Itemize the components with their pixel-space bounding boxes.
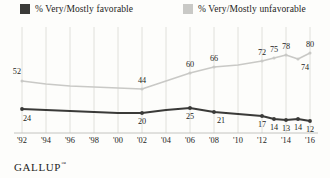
trademark-icon: ™: [61, 161, 66, 166]
x-tick-label: '92: [17, 136, 27, 145]
data-label: 66: [210, 54, 218, 63]
data-point: [261, 60, 264, 63]
data-point: [189, 72, 192, 75]
chart-legend: % Very/Mostly favorable % Very/Mostly un…: [0, 0, 330, 24]
data-point: [309, 52, 312, 55]
data-point: [21, 80, 24, 83]
data-label: 44: [138, 76, 146, 85]
data-point: [273, 57, 276, 60]
data-label: 14: [270, 123, 278, 132]
data-label: 13: [282, 124, 290, 133]
legend-swatch-favorable-icon: [20, 4, 30, 14]
x-tick-label: '06: [185, 136, 195, 145]
data-point: [297, 58, 300, 61]
legend-swatch-unfavorable-icon: [183, 4, 193, 14]
data-point: [296, 117, 300, 121]
data-point: [213, 66, 216, 69]
data-label: 60: [186, 60, 194, 69]
x-tick-label: '04: [161, 136, 171, 145]
gallup-logo: GALLUP: [14, 161, 61, 173]
data-label: 21: [217, 116, 225, 125]
x-tick-label: '02: [137, 136, 147, 145]
x-tick-label: '96: [65, 136, 75, 145]
data-point: [284, 118, 288, 122]
data-point: [141, 88, 144, 91]
legend-label-favorable: % Very/Mostly favorable: [35, 4, 133, 14]
data-point: [20, 107, 24, 111]
x-tick-label: '10: [233, 136, 243, 145]
data-label: 12: [306, 125, 314, 134]
data-label: 17: [258, 120, 266, 129]
data-labels-favorable: 242025211714131412: [23, 112, 314, 134]
data-label: 74: [301, 63, 309, 72]
data-labels-unfavorable: 524460667275787480: [13, 40, 314, 85]
x-axis-tick-labels: '92'94'96'98'00'02'04'06'08'10'12'14'16: [0, 136, 330, 152]
x-tick-label: '94: [41, 136, 51, 145]
data-label: 78: [282, 42, 290, 51]
data-label: 52: [13, 67, 21, 76]
gallup-line-chart: % Very/Mostly favorable % Very/Mostly un…: [0, 0, 330, 178]
legend-item-unfavorable[interactable]: % Very/Mostly unfavorable: [183, 4, 306, 14]
x-tick-label: '00: [113, 136, 123, 145]
data-label: 14: [294, 123, 302, 132]
data-point: [285, 54, 288, 57]
x-tick-label: '14: [281, 136, 291, 145]
x-tick-label: '08: [209, 136, 219, 145]
x-tick-label: '12: [257, 136, 267, 145]
data-label: 75: [270, 45, 278, 54]
x-tick-label: '16: [305, 136, 315, 145]
data-point: [260, 114, 264, 118]
data-point: [272, 117, 276, 121]
plot-area: 524460667275787480 242025211714131412: [0, 26, 330, 138]
data-label: 80: [306, 40, 314, 49]
data-point: [140, 111, 144, 115]
data-point: [308, 119, 312, 123]
legend-label-unfavorable: % Very/Mostly unfavorable: [198, 4, 306, 14]
data-label: 20: [138, 117, 146, 126]
data-point: [212, 110, 216, 114]
data-label: 25: [186, 112, 194, 121]
x-tick-label: '98: [89, 136, 99, 145]
legend-item-favorable[interactable]: % Very/Mostly favorable: [20, 4, 133, 14]
footer: GALLUP™: [14, 157, 66, 175]
data-point: [188, 106, 192, 110]
data-label: 24: [23, 114, 31, 123]
data-label: 72: [258, 48, 266, 57]
plot-svg: 524460667275787480 242025211714131412: [0, 26, 330, 138]
